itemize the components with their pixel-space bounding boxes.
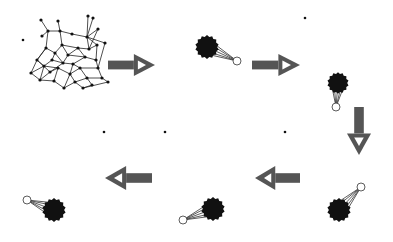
stage-3 — [327, 183, 365, 222]
network-edge — [54, 81, 64, 88]
network-node — [76, 46, 79, 49]
network-node — [73, 80, 76, 83]
arrow-right-2-icon — [252, 54, 300, 76]
network-node — [56, 66, 59, 69]
dense-cluster — [328, 72, 349, 94]
stage-5 — [23, 196, 66, 222]
isolated-node — [103, 131, 106, 134]
outlier-node — [179, 216, 187, 224]
network-edge — [64, 74, 70, 88]
network-node — [53, 51, 56, 54]
network-node — [40, 34, 43, 37]
outlier-node — [233, 57, 241, 65]
network-edge — [62, 45, 68, 55]
arrow-right-1-icon — [108, 54, 155, 76]
network-node — [87, 47, 90, 50]
network-edge — [60, 31, 62, 45]
network-node — [90, 83, 93, 86]
network-node — [96, 27, 99, 30]
network-node — [71, 62, 74, 65]
network-edge — [68, 55, 85, 57]
dense-cluster — [195, 35, 218, 59]
network-node — [46, 29, 49, 32]
network-edge — [72, 34, 87, 37]
network-node — [38, 78, 41, 81]
isolated-dots — [22, 17, 307, 134]
isolated-node — [22, 39, 25, 42]
outlier-node — [23, 196, 31, 204]
network-node — [68, 72, 71, 75]
network-edge — [60, 31, 72, 34]
network-node — [103, 41, 106, 44]
network-edge — [73, 57, 85, 64]
network-edge — [40, 80, 54, 81]
network-edge — [78, 48, 89, 49]
network-edge — [68, 48, 78, 55]
network-edge — [83, 82, 108, 88]
network-edge — [98, 68, 102, 78]
network-edge — [78, 48, 85, 57]
network-node — [66, 53, 69, 56]
network-edge — [46, 31, 48, 48]
stage-2 — [328, 72, 349, 111]
network-node — [29, 71, 32, 74]
network-node — [50, 58, 53, 61]
network-edge — [87, 37, 105, 43]
network-node — [86, 14, 89, 17]
network-node — [58, 29, 61, 32]
arrow-left-1-icon — [255, 166, 300, 190]
network-node — [56, 19, 59, 22]
arrow-shaft — [126, 173, 152, 183]
network-edge — [80, 68, 87, 78]
isolated-node — [304, 17, 307, 20]
network-node — [52, 79, 55, 82]
outlier-node — [332, 103, 340, 111]
network-edge — [62, 45, 78, 48]
network-node — [100, 76, 103, 79]
network-node — [78, 66, 81, 69]
arrow-shaft — [275, 173, 300, 183]
isolated-node — [284, 131, 287, 134]
arrow-shaft — [354, 107, 364, 133]
network-node — [70, 32, 73, 35]
stage-1 — [195, 35, 241, 65]
network-edge — [85, 57, 96, 60]
arrow-shaft — [252, 61, 278, 70]
network-node — [96, 66, 99, 69]
network-node — [85, 35, 88, 38]
network-edge — [44, 66, 58, 68]
arrow-down-icon — [347, 107, 371, 155]
network-node — [95, 43, 98, 46]
network-node — [44, 46, 47, 49]
network-node — [39, 18, 42, 21]
network-edge — [96, 45, 97, 60]
isolated-node — [164, 131, 167, 134]
initial-network-graph — [29, 14, 109, 89]
stage-4 — [179, 197, 225, 224]
network-node — [94, 58, 97, 61]
network-edge — [41, 20, 48, 31]
network-edge — [37, 48, 46, 60]
arrow-shaft — [108, 61, 134, 70]
network-node — [48, 70, 51, 73]
network-edge — [58, 68, 70, 74]
network-node — [42, 64, 45, 67]
network-node — [62, 86, 65, 89]
network-node — [91, 16, 94, 19]
process-diagram — [0, 0, 393, 242]
network-node — [81, 86, 84, 89]
network-edge — [75, 78, 87, 82]
network-edge — [31, 73, 40, 80]
network-node — [61, 61, 64, 64]
network-node — [35, 58, 38, 61]
flow-arrows — [105, 54, 371, 190]
outlier-node — [357, 183, 365, 191]
network-node — [83, 55, 86, 58]
network-node — [85, 76, 88, 79]
diagram-canvas — [0, 0, 393, 242]
network-edge — [98, 43, 105, 68]
arrow-left-2-icon — [105, 166, 152, 190]
network-node — [106, 80, 109, 83]
network-node — [60, 43, 63, 46]
